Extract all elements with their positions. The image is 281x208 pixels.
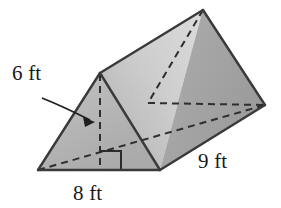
- base-dimension-label: 8 ft: [73, 181, 102, 205]
- prism-svg-canvas: 6 ft 8 ft 9 ft: [0, 0, 281, 208]
- prism-faces: [38, 10, 265, 170]
- length-dimension-label: 9 ft: [198, 149, 227, 173]
- triangular-prism-figure: 6 ft 8 ft 9 ft: [0, 0, 281, 208]
- height-dimension-label: 6 ft: [12, 61, 41, 85]
